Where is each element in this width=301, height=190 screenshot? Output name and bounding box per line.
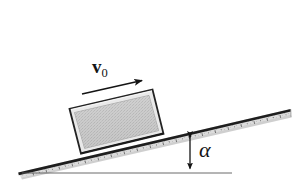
block-texture bbox=[75, 95, 159, 148]
velocity-arrow bbox=[82, 81, 142, 95]
velocity-subscript: 0 bbox=[102, 66, 108, 80]
figure-canvas bbox=[0, 0, 301, 190]
velocity-label: v0 bbox=[92, 57, 108, 80]
velocity-symbol: v bbox=[92, 56, 101, 77]
angle-arrow-top-cap bbox=[189, 135, 192, 138]
angle-label: α bbox=[199, 139, 211, 161]
inclined-plane-figure: v0 α bbox=[0, 0, 301, 190]
ruler-right-end bbox=[291, 109, 292, 117]
